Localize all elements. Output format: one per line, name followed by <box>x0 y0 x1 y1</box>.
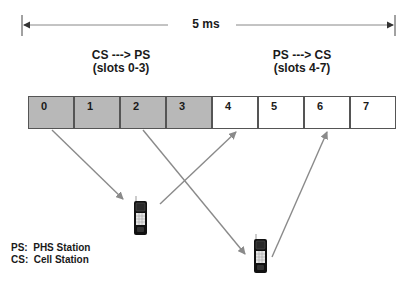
uplink-slot-range: (slots 4-7) <box>247 62 357 75</box>
uplink-direction-label: PS ---> CS (slots 4-7) <box>247 49 357 75</box>
phone-handset-icon <box>134 196 147 235</box>
slot-6: 6 <box>305 97 351 128</box>
slot-5: 5 <box>259 97 305 128</box>
slot-7: 7 <box>351 97 395 128</box>
arrow-left-icon <box>23 22 30 29</box>
arrow-handset1-to-slot4 <box>160 132 236 204</box>
arrow-right-icon <box>387 22 394 29</box>
duration-label: 5 ms <box>176 17 236 31</box>
arrow-handset2-to-slot6 <box>272 132 327 257</box>
slot-0: 0 <box>29 97 75 128</box>
slot-4: 4 <box>213 97 259 128</box>
arrow-slot0-to-handset1 <box>52 130 123 199</box>
slot-2: 2 <box>121 97 167 128</box>
slot-1: 1 <box>75 97 121 128</box>
slot-3: 3 <box>167 97 213 128</box>
legend: PS: PHS Station CS: Cell Station <box>11 242 90 266</box>
signal-arrows <box>52 130 327 257</box>
downlink-direction-label: CS ---> PS (slots 0-3) <box>66 49 176 75</box>
legend-item-ps: PS: PHS Station <box>11 242 90 254</box>
tdma-frame: 0 1 2 3 4 5 6 7 <box>28 96 396 129</box>
arrow-slot2-to-handset2 <box>143 130 245 254</box>
downlink-slot-range: (slots 0-3) <box>66 62 176 75</box>
phone-handset-icon <box>254 234 267 273</box>
legend-item-cs: CS: Cell Station <box>11 254 90 266</box>
